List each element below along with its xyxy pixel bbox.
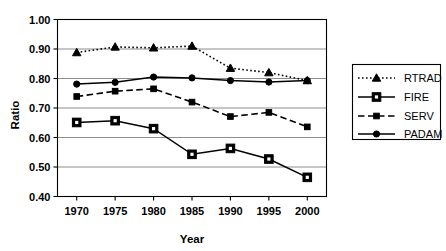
- y-axis-title: Ratio: [9, 101, 21, 130]
- x-axis-tick-label: 2000: [295, 205, 319, 217]
- data-point-marker-inner: [190, 153, 193, 156]
- data-point-marker-inner: [306, 176, 309, 179]
- data-point-marker: [228, 114, 234, 120]
- data-point-marker: [112, 88, 118, 94]
- data-point-marker-inner: [114, 119, 117, 122]
- data-point-marker: [151, 86, 157, 92]
- x-axis-tick-label: 1975: [103, 205, 127, 217]
- x-axis-tick-label: 1985: [180, 205, 204, 217]
- legend-label: FIRE: [404, 91, 429, 103]
- y-axis-tick-label: 0.70: [29, 102, 50, 114]
- y-axis-tick-label: 0.40: [29, 191, 50, 203]
- chart-legend: RTRADFIRESERVPADAM: [353, 65, 443, 141]
- data-point-marker-inner: [267, 157, 270, 160]
- x-axis-tick-label: 1995: [257, 205, 281, 217]
- y-axis-tick-label: 0.60: [29, 132, 50, 144]
- legend-label: PADAM: [404, 128, 442, 140]
- x-axis-title: Year: [180, 233, 205, 245]
- data-point-marker: [112, 79, 118, 85]
- legend-label: RTRAD: [404, 72, 442, 84]
- data-point-marker: [304, 77, 310, 83]
- data-point-marker: [266, 79, 272, 85]
- data-point-marker-inner: [375, 95, 378, 98]
- data-point-marker: [304, 124, 310, 130]
- data-point-marker: [266, 110, 272, 116]
- chart-figure: 0.400.500.600.700.800.901.00 19701975198…: [0, 0, 446, 251]
- y-axis-tick-label: 0.90: [29, 43, 50, 55]
- y-axis-tick-label: 1.00: [29, 14, 50, 26]
- data-point-marker: [227, 77, 233, 83]
- data-point-marker: [189, 99, 195, 105]
- data-point-marker: [74, 94, 80, 100]
- x-axis-tick-label: 1980: [141, 205, 165, 217]
- y-axis-tick-label: 0.50: [29, 161, 50, 173]
- x-axis-tick-label: 1970: [64, 205, 88, 217]
- data-point-marker: [74, 81, 80, 87]
- legend-label: SERV: [404, 110, 434, 122]
- data-point-marker: [373, 131, 379, 137]
- y-axis-tick-label: 0.80: [29, 73, 50, 85]
- data-point-marker-inner: [152, 127, 155, 130]
- data-point-marker: [189, 75, 195, 81]
- line-chart: 0.400.500.600.700.800.901.00 19701975198…: [0, 0, 446, 251]
- data-point-marker: [374, 113, 380, 119]
- data-point-marker-inner: [75, 121, 78, 124]
- data-point-marker-inner: [229, 147, 232, 150]
- data-point-marker: [150, 74, 156, 80]
- x-axis-tick-label: 1990: [218, 205, 242, 217]
